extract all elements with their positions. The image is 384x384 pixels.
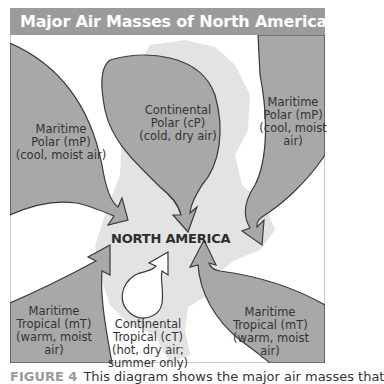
label-mt-west: Maritime Tropical (mT) (warm, moist air): [15, 305, 93, 357]
label-cp: Continental Polar (cP) (cold, dry air): [135, 104, 221, 143]
label-mt-east: Maritime Tropical (mT) (warm, moist air): [233, 306, 307, 358]
figure-caption: FIGURE 4This diagram shows the major air…: [10, 369, 384, 384]
figure-title: Major Air Masses of North America: [20, 12, 327, 31]
label-ct: Continental Tropical (cT) (hot, dry air;…: [108, 318, 188, 370]
title-bar: Major Air Masses of North America: [10, 8, 325, 35]
north-america-label: NORTH AMERICA: [111, 231, 230, 246]
caption-figure-number: FIGURE 4: [10, 369, 77, 384]
label-mp-east: Maritime Polar (mP) (cool, moist air): [258, 96, 328, 148]
label-mp-west: Maritime Polar (mP) (cool, moist air): [15, 123, 107, 162]
caption-text: This diagram shows the major air masses …: [83, 369, 384, 384]
